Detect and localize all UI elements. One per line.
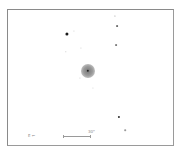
compass-label: E ← <box>28 134 35 138</box>
scale-bar-label: 30" <box>88 130 95 134</box>
star <box>116 25 118 27</box>
star <box>115 44 117 46</box>
scale-bar <box>63 136 91 137</box>
star <box>124 129 126 131</box>
